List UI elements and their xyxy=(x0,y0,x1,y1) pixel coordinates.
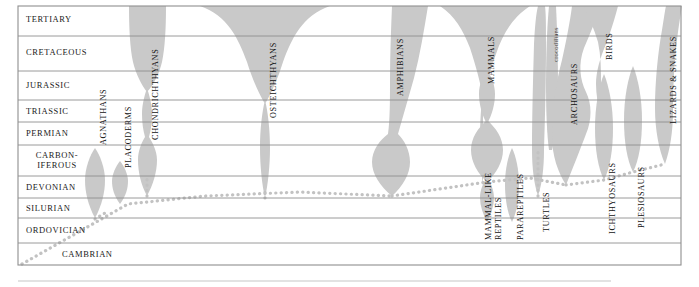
taxon-label-lizards-and-snakes: LIZARDS & SNAKES xyxy=(669,36,678,124)
taxon-label-mammal-like-reptiles: MAMMAL-LIKE REPTILES xyxy=(484,172,503,240)
taxon-label-turtles: TURTLES xyxy=(542,192,551,232)
period-label-silurian: SILURIAN xyxy=(26,203,70,213)
taxon-label-parareptiles: PARAREPTILES xyxy=(516,173,525,240)
period-label-devonian: DEVONIAN xyxy=(26,182,76,192)
period-label-tertiary: TERTIARY xyxy=(26,14,72,24)
spindle-plesiosaurs xyxy=(624,66,642,172)
taxon-label-amphibians: AMPHIBIANS xyxy=(396,38,405,96)
period-label-jurassic: JURASSIC xyxy=(26,80,70,90)
spindle-group xyxy=(85,6,682,222)
spindle-osteichthyans xyxy=(200,6,330,198)
period-label-cretaceous: CRETACEOUS xyxy=(26,47,87,57)
figure-root: TERTIARY CRETACEOUS JURASSIC TRIASSIC PE… xyxy=(0,0,699,287)
taxon-label-birds: BIRDS xyxy=(605,32,614,60)
spindle-chondrichthyans xyxy=(129,6,166,196)
taxon-label-chondrichthyans: CHONDRICHTHYANS xyxy=(151,49,160,140)
taxon-label-agnathans: AGNATHANS xyxy=(99,89,108,145)
period-label-carboniferous: CARBON- IFEROUS xyxy=(26,150,88,170)
taxon-label-plesiosaurs: PLESIOSAURS xyxy=(637,166,646,228)
spindle-turtles xyxy=(532,6,546,196)
taxon-label-ichthyosaurs: ICHTHYOSAURS xyxy=(608,162,617,234)
taxon-label-crocodilians: crocodilians xyxy=(551,27,560,62)
spindle-agnathans xyxy=(85,148,105,218)
taxon-label-osteichthyans: OSTEICHTHYANS xyxy=(269,42,278,118)
spindle-amphibians xyxy=(372,6,428,196)
taxon-label-mammals: MAMMALS xyxy=(487,36,496,84)
period-label-ordovician: ORDOVICIAN xyxy=(26,225,86,235)
period-label-cambrian: CAMBRIAN xyxy=(62,249,113,259)
taxon-label-archosaurs: ARCHOSAURS xyxy=(570,63,579,125)
period-label-triassic: TRIASSIC xyxy=(26,106,69,116)
period-label-permian: PERMIAN xyxy=(26,128,68,138)
taxon-label-placoderms: PLACODERMS xyxy=(124,106,133,168)
